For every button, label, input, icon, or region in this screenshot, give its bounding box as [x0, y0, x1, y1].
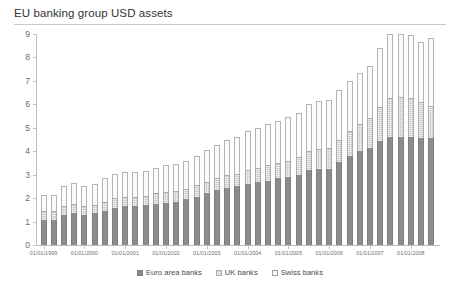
bar-segment-uk-banks: [194, 185, 200, 197]
bar-segment-euro-area-banks: [326, 169, 332, 245]
y-axis-tick-label: 7: [4, 77, 30, 86]
bar-segment-uk-banks: [132, 197, 138, 206]
bar-segment-euro-area-banks: [347, 156, 353, 245]
bar-segment-euro-area-banks: [102, 211, 108, 245]
bar-stack: [81, 186, 87, 245]
bar-segment-euro-area-banks: [183, 199, 189, 245]
bar-stack: [387, 34, 393, 245]
x-axis-tick-label: 01/01/2003: [193, 250, 220, 256]
legend-label-euro: Euro area banks: [146, 268, 202, 277]
bar-stack: [265, 124, 271, 245]
bar-segment-uk-banks: [377, 107, 383, 141]
bar-segment-swiss-banks: [153, 168, 159, 194]
bar-stack: [336, 90, 342, 245]
bar-segment-swiss-banks: [326, 100, 332, 148]
bar-segment-euro-area-banks: [316, 169, 322, 245]
bar-stack: [224, 140, 230, 245]
bar-segment-euro-area-banks: [357, 151, 363, 245]
title-divider: [14, 24, 446, 25]
x-axis-tick-label: 01/01/2001: [111, 250, 138, 256]
bar-segment-uk-banks: [306, 151, 312, 170]
bar-segment-swiss-banks: [143, 171, 149, 196]
bar-segment-euro-area-banks: [428, 138, 434, 245]
bar-segment-swiss-banks: [265, 124, 271, 165]
bar-segment-swiss-banks: [316, 101, 322, 149]
bar-segment-swiss-banks: [296, 113, 302, 158]
bar-segment-euro-area-banks: [112, 208, 118, 246]
bar-segment-uk-banks: [102, 202, 108, 211]
bar-stack: [194, 156, 200, 245]
x-axis-line: [36, 245, 440, 246]
legend-item-euro-area-banks: Euro area banks: [137, 268, 202, 277]
bar-segment-swiss-banks: [41, 195, 47, 211]
bar-stack: [163, 165, 169, 245]
bar-segment-euro-area-banks: [61, 215, 67, 245]
bar-segment-uk-banks: [92, 205, 98, 213]
y-axis-tick-label: 6: [4, 100, 30, 109]
bar-segment-swiss-banks: [418, 42, 424, 102]
x-axis-tick-label: 01/01/2008: [397, 250, 424, 256]
bar-stack: [122, 172, 128, 245]
y-axis-tick-label: 3: [4, 170, 30, 179]
bar-stack: [347, 81, 353, 245]
bar-segment-uk-banks: [398, 97, 404, 137]
bar-segment-uk-banks: [183, 189, 189, 200]
bar-segment-swiss-banks: [71, 183, 77, 204]
bar-segment-euro-area-banks: [255, 182, 261, 245]
bar-stack: [71, 183, 77, 245]
x-axis-tick-mark: [207, 246, 208, 249]
bar-stack: [296, 113, 302, 245]
bar-segment-swiss-banks: [112, 174, 118, 199]
x-axis-tick-mark: [84, 246, 85, 249]
bar-segment-swiss-banks: [367, 66, 373, 119]
bar-segment-euro-area-banks: [122, 206, 128, 245]
bar-segment-uk-banks: [255, 168, 261, 182]
x-axis-tick-mark: [44, 246, 45, 249]
bar-stack: [326, 100, 332, 245]
bar-segment-uk-banks: [275, 163, 281, 178]
bar-segment-euro-area-banks: [367, 148, 373, 245]
bar-stack: [92, 184, 98, 245]
bar-segment-uk-banks: [112, 198, 118, 207]
bar-segment-euro-area-banks: [408, 137, 414, 245]
bar-segment-swiss-banks: [194, 156, 200, 185]
x-axis-tick-label: 01/01/2004: [234, 250, 261, 256]
bar-stack: [51, 195, 57, 245]
bar-segment-euro-area-banks: [224, 188, 230, 245]
bar-segment-euro-area-banks: [306, 170, 312, 245]
bar-segment-euro-area-banks: [336, 162, 342, 245]
bar-segment-uk-banks: [285, 161, 291, 177]
bar-stack: [214, 145, 220, 245]
x-axis-tick-mark: [370, 246, 371, 249]
bar-segment-euro-area-banks: [204, 193, 210, 245]
bar-stack: [204, 150, 210, 245]
bar-stack: [316, 101, 322, 245]
bar-segment-euro-area-banks: [265, 181, 271, 245]
bar-segment-euro-area-banks: [143, 205, 149, 245]
bar-segment-euro-area-banks: [398, 137, 404, 245]
bar-segment-euro-area-banks: [245, 184, 251, 245]
bar-segment-swiss-banks: [173, 164, 179, 191]
y-axis-tick-mark: [33, 245, 36, 246]
bar-segment-swiss-banks: [275, 121, 281, 163]
y-axis-tick-label: 8: [4, 53, 30, 62]
bar-segment-uk-banks: [428, 106, 434, 139]
x-axis-tick-label: 01/01/2000: [71, 250, 98, 256]
bar-segment-uk-banks: [173, 191, 179, 202]
bar-stack: [132, 172, 138, 245]
bar-segment-swiss-banks: [408, 35, 414, 98]
bar-segment-swiss-banks: [306, 104, 312, 151]
bar-segment-uk-banks: [296, 157, 302, 175]
x-axis-tick-mark: [166, 246, 167, 249]
page-title: EU banking group USD assets: [14, 7, 173, 19]
bar-segment-uk-banks: [387, 98, 393, 137]
bar-segment-uk-banks: [214, 178, 220, 190]
y-axis-tick-label: 4: [4, 147, 30, 156]
x-axis-tick-label: 01/01/2005: [275, 250, 302, 256]
bar-segment-euro-area-banks: [71, 213, 77, 245]
bar-stack: [418, 42, 424, 245]
bar-segment-euro-area-banks: [81, 215, 87, 245]
bar-segment-euro-area-banks: [214, 190, 220, 245]
bar-segment-euro-area-banks: [173, 202, 179, 245]
bar-segment-euro-area-banks: [234, 186, 240, 245]
